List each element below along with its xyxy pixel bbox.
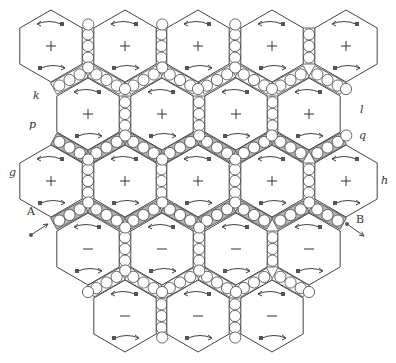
junction-bead — [266, 130, 277, 141]
bead — [156, 299, 167, 310]
bead — [138, 142, 149, 153]
bead — [322, 142, 333, 153]
bead — [193, 243, 204, 254]
anchor-dot-icon — [223, 269, 227, 273]
bead — [138, 74, 149, 85]
label-l: l — [360, 103, 364, 116]
bead — [211, 74, 222, 85]
anchor-dot-icon — [245, 90, 249, 94]
lattice-svg — [0, 0, 396, 363]
bead — [54, 215, 65, 226]
label-p: p — [29, 118, 36, 131]
bead — [267, 243, 278, 254]
junction-bead — [120, 222, 131, 233]
anchor-dot-icon — [223, 134, 227, 138]
anchor-dot-icon — [259, 201, 263, 205]
anchor-dot-icon — [112, 66, 116, 70]
bead — [156, 310, 167, 321]
label-k: k — [33, 89, 40, 102]
bead — [229, 175, 240, 186]
anchor-dot-icon — [281, 22, 285, 26]
bead — [248, 277, 259, 288]
bead — [267, 255, 278, 266]
bead — [156, 175, 167, 186]
anchor-dot-icon — [318, 225, 322, 229]
vector-origin-dot-icon — [345, 222, 349, 226]
bead — [303, 29, 314, 40]
bead — [248, 142, 259, 153]
vector-line — [31, 224, 48, 235]
junction-bead — [230, 19, 241, 30]
bead — [322, 209, 333, 220]
bead — [82, 175, 93, 186]
junction-bead — [230, 197, 241, 208]
bead — [156, 52, 167, 63]
junction-bead — [83, 19, 94, 30]
bead — [119, 97, 130, 108]
anchor-dot-icon — [318, 90, 322, 94]
junction-bead — [304, 197, 315, 208]
bead — [193, 97, 204, 108]
bead — [285, 74, 296, 85]
junction-bead — [192, 83, 203, 94]
junction-bead — [266, 83, 277, 94]
junction-bead — [194, 265, 205, 276]
A-arrow-vector-icon — [29, 224, 48, 237]
bead — [248, 209, 259, 220]
bead — [285, 142, 296, 153]
bead — [64, 209, 75, 220]
vector-origin-dot-icon — [29, 233, 33, 237]
anchor-dot-icon — [134, 22, 138, 26]
junction-bead — [157, 197, 168, 208]
anchor-dot-icon — [281, 292, 285, 296]
hexagon-layer — [20, 10, 377, 352]
bead — [193, 108, 204, 119]
anchor-dot-icon — [171, 90, 175, 94]
bead — [174, 142, 185, 153]
junction-bead — [119, 83, 130, 94]
junction-bead — [120, 265, 131, 276]
bead — [229, 299, 240, 310]
anchor-dot-icon — [333, 66, 337, 70]
label-B: B — [356, 213, 364, 226]
bead — [303, 40, 314, 51]
bead — [156, 164, 167, 175]
bead — [332, 215, 343, 226]
anchor-dot-icon — [149, 269, 153, 273]
anchor-dot-icon — [333, 201, 337, 205]
bead — [259, 271, 270, 282]
junction-bead — [83, 197, 94, 208]
junction-bead — [157, 332, 168, 343]
junction-bead — [83, 154, 94, 165]
anchor-dot-icon — [149, 134, 153, 138]
anchor-dot-icon — [207, 157, 211, 161]
bead — [312, 69, 323, 80]
bead — [101, 142, 112, 153]
junction-bead — [230, 332, 241, 343]
anchor-dot-icon — [259, 336, 263, 340]
anchor-dot-icon — [38, 201, 42, 205]
hexagonal-lattice-diagram: kpglqhAB — [0, 0, 396, 363]
anchor-dot-icon — [112, 336, 116, 340]
anchor-dot-icon — [75, 134, 79, 138]
junction-bead — [340, 83, 351, 94]
bead — [295, 69, 306, 80]
bead — [101, 277, 112, 288]
anchor-dot-icon — [60, 22, 64, 26]
bead — [156, 40, 167, 51]
anchor-dot-icon — [259, 66, 263, 70]
junction-bead — [230, 154, 241, 165]
label-A: A — [27, 205, 35, 218]
anchor-dot-icon — [60, 157, 64, 161]
anchor-dot-icon — [134, 292, 138, 296]
anchor-dot-icon — [207, 22, 211, 26]
junction-bead — [194, 130, 205, 141]
bead — [211, 277, 222, 288]
junction-bead — [120, 130, 131, 141]
bead — [267, 97, 278, 108]
bead — [267, 232, 278, 243]
junction-bead — [230, 286, 241, 297]
anchor-dot-icon — [355, 157, 359, 161]
bead — [156, 187, 167, 198]
label-g: g — [9, 166, 16, 179]
